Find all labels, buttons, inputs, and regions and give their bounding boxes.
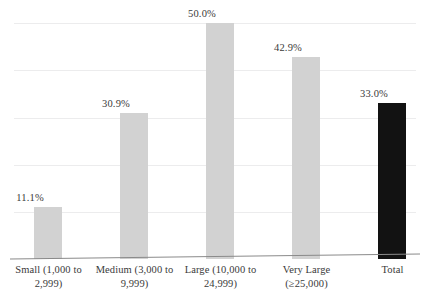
bar-very-large[interactable] [292, 57, 320, 259]
bar-value-total: 33.0% [340, 88, 408, 99]
x-axis-line [10, 251, 420, 260]
x-label-medium-line1: Medium (3,000 to [96, 264, 174, 275]
bar-value-large: 50.0% [168, 8, 236, 19]
bar-large[interactable] [206, 23, 234, 259]
bar-group-very-large: 42.9% [264, 0, 349, 262]
plot-area: 11.1% 30.9% 50.0% 42.9% 33.0% [0, 0, 426, 262]
bar-chart: 11.1% 30.9% 50.0% 42.9% 33.0% [0, 0, 426, 304]
bar-group-large: 50.0% [178, 0, 263, 262]
bar-medium[interactable] [120, 113, 148, 259]
x-label-large-line1: Large (10,000 to [185, 264, 257, 275]
bar-group-total: 33.0% [350, 0, 426, 262]
bar-group-medium: 30.9% [92, 0, 177, 262]
x-label-small-line1: Small (1,000 to [15, 264, 82, 275]
bar-value-medium: 30.9% [82, 98, 150, 109]
bar-group-small: 11.1% [6, 0, 91, 262]
x-axis-labels: Small (1,000 to 2,999) Medium (3,000 to … [0, 263, 426, 304]
bar-value-very-large: 42.9% [254, 42, 322, 53]
x-label-small: Small (1,000 to 2,999) [6, 263, 91, 290]
x-label-total: Total [350, 263, 426, 277]
x-label-medium: Medium (3,000 to 9,999) [92, 263, 177, 290]
bar-total[interactable] [378, 103, 406, 259]
x-label-large-line2: 24,999) [178, 277, 263, 291]
x-label-small-line2: 2,999) [6, 277, 91, 291]
x-label-total-line1: Total [382, 264, 404, 275]
x-label-very-large: Very Large (≥25,000) [264, 263, 349, 290]
x-label-medium-line2: 9,999) [92, 277, 177, 291]
bar-value-small: 11.1% [0, 192, 64, 203]
bar-series: 11.1% 30.9% 50.0% 42.9% 33.0% [0, 0, 426, 262]
x-label-very-large-line1: Very Large [283, 264, 331, 275]
x-label-large: Large (10,000 to 24,999) [178, 263, 263, 290]
x-label-very-large-line2: (≥25,000) [264, 277, 349, 291]
